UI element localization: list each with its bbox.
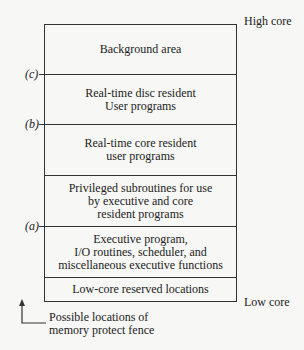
memory-protect-fence-note: Possible locations of memory protect fen… — [49, 311, 154, 337]
fence-arrow-icon — [0, 0, 304, 350]
